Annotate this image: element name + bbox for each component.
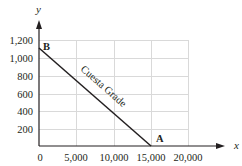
y-tick-label: 400 — [17, 106, 33, 117]
y-axis-label: y — [35, 3, 41, 15]
x-tick-label: 15,000 — [137, 152, 166, 163]
x-axis-label: x — [233, 139, 239, 151]
point-b-label: B — [43, 41, 50, 52]
line-label: Cuesta Grade — [79, 63, 129, 109]
x-tick-label: 0 — [37, 152, 42, 163]
y-tick-label: 800 — [17, 71, 33, 82]
x-tick-labels: 0 5,000 10,000 15,000 20,000 — [37, 152, 202, 163]
y-tick-labels: 1,200 1,000 800 600 400 200 — [9, 35, 33, 135]
x-tick-label: 10,000 — [100, 152, 129, 163]
y-axis-arrow-icon — [36, 20, 42, 29]
y-tick-label: 200 — [17, 124, 33, 135]
cuesta-grade-chart: y x 1,200 1,000 800 600 400 200 0 5,000 … — [0, 0, 242, 166]
y-tick-label: 1,000 — [9, 53, 33, 64]
axes — [39, 27, 218, 146]
x-tick-label: 5,000 — [64, 152, 88, 163]
y-tick-label: 1,200 — [9, 35, 33, 46]
point-a-label: A — [156, 133, 164, 144]
chart-canvas: y x 1,200 1,000 800 600 400 200 0 5,000 … — [0, 0, 242, 166]
x-tick-label: 20,000 — [174, 152, 203, 163]
y-tick-label: 600 — [17, 89, 33, 100]
cuesta-grade-line — [39, 48, 151, 146]
x-axis-arrow-icon — [216, 143, 225, 149]
